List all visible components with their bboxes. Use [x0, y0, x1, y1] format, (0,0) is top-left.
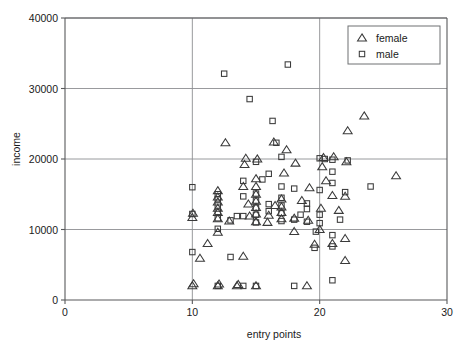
data-point-female — [322, 177, 331, 184]
data-point-male — [279, 218, 284, 223]
legend: femalemale — [348, 26, 440, 64]
legend-label-female: female — [376, 32, 408, 44]
data-point-female — [334, 206, 343, 213]
ytick-label-20000: 20000 — [29, 153, 58, 165]
data-point-female — [203, 239, 212, 246]
data-point-male — [330, 278, 335, 283]
data-point-male — [241, 194, 246, 199]
data-points-male — [190, 62, 374, 289]
data-point-female — [341, 235, 350, 242]
data-point-female — [316, 204, 325, 211]
data-point-female — [280, 169, 289, 176]
data-point-male — [241, 213, 246, 218]
data-point-female — [291, 159, 300, 166]
data-point-female — [328, 192, 337, 199]
data-point-male — [337, 217, 342, 222]
xtick-label-10: 10 — [186, 306, 198, 318]
ytick-label-0: 0 — [52, 294, 58, 306]
data-point-female — [239, 252, 248, 259]
data-point-male — [247, 96, 252, 101]
data-point-female — [252, 182, 261, 189]
data-point-male — [292, 283, 297, 288]
data-point-male — [304, 206, 309, 211]
ytick-label-10000: 10000 — [29, 224, 58, 236]
data-point-female — [252, 175, 261, 182]
data-point-male — [266, 171, 271, 176]
scatter-chart: 0100002000030000400000102030 entry point… — [0, 0, 472, 347]
data-point-male — [279, 184, 284, 189]
data-point-male — [312, 245, 317, 250]
data-point-female — [318, 163, 327, 170]
data-point-male — [292, 186, 297, 191]
data-point-female — [341, 256, 350, 263]
data-point-male — [221, 71, 226, 76]
data-point-male — [266, 201, 271, 206]
data-points-female — [188, 112, 401, 289]
data-point-female — [282, 146, 291, 153]
legend-label-male: male — [376, 48, 399, 60]
data-point-female — [263, 218, 272, 225]
data-point-female — [319, 153, 328, 160]
data-point-male — [228, 254, 233, 259]
data-point-female — [297, 196, 306, 203]
data-point-male — [368, 184, 373, 189]
data-point-male — [234, 213, 239, 218]
data-point-female — [253, 155, 262, 162]
x-axis-title: entry points — [247, 328, 301, 340]
data-point-female — [305, 184, 314, 191]
data-point-female — [304, 216, 313, 223]
data-point-male — [270, 118, 275, 123]
data-point-female — [196, 254, 205, 261]
data-point-female — [360, 112, 369, 119]
data-point-female — [290, 228, 299, 235]
data-point-female — [241, 154, 250, 161]
data-point-male — [330, 169, 335, 174]
xtick-label-20: 20 — [314, 306, 326, 318]
xtick-label-0: 0 — [62, 306, 68, 318]
plot-canvas: 0100002000030000400000102030 entry point… — [0, 0, 472, 347]
data-point-male — [330, 232, 335, 237]
data-point-female — [392, 172, 401, 179]
xtick-label-30: 30 — [441, 306, 453, 318]
data-point-female — [343, 127, 352, 134]
ytick-label-40000: 40000 — [29, 12, 58, 24]
y-axis-title: income — [10, 132, 22, 166]
data-point-male — [285, 62, 290, 67]
data-point-female — [302, 282, 311, 289]
ytick-label-30000: 30000 — [29, 83, 58, 95]
data-point-male — [298, 212, 303, 217]
data-point-female — [221, 139, 230, 146]
